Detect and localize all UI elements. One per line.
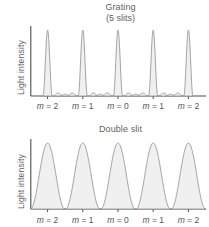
grating-subtitle: (5 slits) xyxy=(36,13,205,24)
secondary-maximum xyxy=(138,93,148,96)
principal-maximum xyxy=(113,30,122,96)
double-slit-curve xyxy=(30,139,206,213)
grating-y-axis-label: Light intensity xyxy=(16,40,26,95)
grating-plot-area xyxy=(30,26,206,100)
interference-fringe xyxy=(66,143,100,209)
secondary-maximum xyxy=(173,93,183,96)
grating-title: Grating xyxy=(36,2,205,13)
order-label: m = 1 xyxy=(136,214,171,227)
interference-patterns-figure: Grating (5 slits) Light intensity m = 2m… xyxy=(0,0,209,227)
interference-fringe xyxy=(171,143,205,209)
order-label: m = 0 xyxy=(100,214,135,227)
order-label: m = 2 xyxy=(30,214,65,227)
order-label: m = 2 xyxy=(171,100,206,113)
order-label: m = 1 xyxy=(136,100,171,113)
order-label: m = 2 xyxy=(30,100,65,113)
secondary-maximum xyxy=(103,93,113,96)
interference-fringe xyxy=(31,143,65,209)
double-slit-y-axis-label: Light intensity xyxy=(16,154,26,209)
grating-x-axis-labels: m = 2m = 1m = 0m = 1m = 2 xyxy=(30,100,206,113)
order-label: m = 0 xyxy=(100,100,135,113)
grating-curve xyxy=(30,26,206,100)
secondary-maximum xyxy=(67,93,77,96)
principal-maximum xyxy=(184,30,193,96)
principal-maximum xyxy=(149,30,158,96)
double-slit-x-axis-labels: m = 2m = 1m = 0m = 1m = 2 xyxy=(30,214,206,227)
order-label: m = 1 xyxy=(65,214,100,227)
interference-fringe xyxy=(101,143,135,209)
double-slit-plot-area xyxy=(30,139,206,213)
principal-maximum xyxy=(43,30,52,96)
principal-maximum xyxy=(78,30,87,96)
double-slit-title: Double slit xyxy=(36,124,205,135)
grating-panel: Grating (5 slits) Light intensity m = 2m… xyxy=(0,0,209,113)
interference-fringe xyxy=(136,143,170,209)
double-slit-panel: Double slit Light intensity m = 2m = 1m … xyxy=(0,113,209,227)
order-label: m = 2 xyxy=(171,214,206,227)
order-label: m = 1 xyxy=(65,100,100,113)
